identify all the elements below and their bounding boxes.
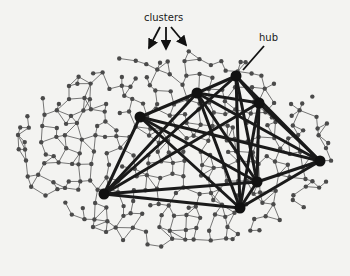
hub-label: hub bbox=[259, 32, 278, 43]
network-graph bbox=[0, 0, 350, 276]
hub-edges bbox=[104, 76, 320, 208]
network-diagram: clusters hub bbox=[0, 0, 350, 276]
clusters-label: clusters bbox=[144, 12, 183, 23]
